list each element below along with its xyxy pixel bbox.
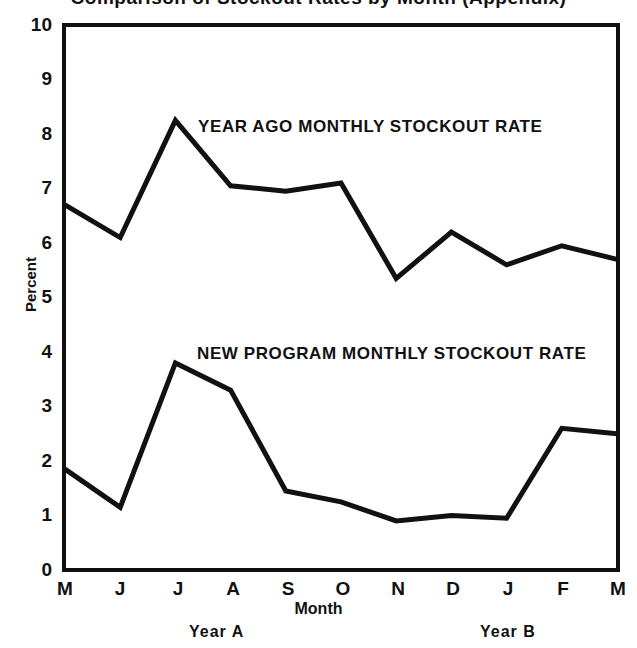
series-layer <box>65 120 617 521</box>
x-tick-9: F <box>548 578 578 600</box>
x-tick-8: J <box>493 578 523 600</box>
x-tick-7: D <box>438 578 468 600</box>
x-tick-1: J <box>105 578 135 600</box>
y-tick-10: 10 <box>18 14 52 36</box>
y-tick-0: 0 <box>18 559 52 581</box>
y-tick-1: 1 <box>18 504 52 526</box>
series-annotation-year-ago: YEAR AGO MONTHLY STOCKOUT RATE <box>198 117 543 137</box>
x-tick-0: M <box>50 578 80 600</box>
period-label-year-a: Year A <box>189 623 244 641</box>
y-tick-7: 7 <box>18 177 52 199</box>
series-line-0 <box>65 120 617 278</box>
y-tick-3: 3 <box>18 395 52 417</box>
x-tick-6: N <box>383 578 413 600</box>
series-line-1 <box>65 363 617 521</box>
y-tick-2: 2 <box>18 450 52 472</box>
y-axis-title: Percent <box>22 240 39 330</box>
x-tick-5: O <box>328 578 358 600</box>
x-tick-4: S <box>273 578 303 600</box>
x-tick-2: J <box>163 578 193 600</box>
x-tick-10: M <box>603 578 633 600</box>
y-tick-9: 9 <box>18 68 52 90</box>
series-annotation-new-program: NEW PROGRAM MONTHLY STOCKOUT RATE <box>197 344 586 364</box>
y-tick-8: 8 <box>18 123 52 145</box>
x-tick-3: A <box>218 578 248 600</box>
period-label-year-b: Year B <box>480 623 536 641</box>
plot-frame <box>64 25 618 570</box>
chart-figure: Comparison of Stockout Rates by Month (A… <box>0 0 637 648</box>
y-tick-4: 4 <box>18 341 52 363</box>
plot-area <box>0 0 637 648</box>
x-axis-title: Month <box>0 600 637 618</box>
